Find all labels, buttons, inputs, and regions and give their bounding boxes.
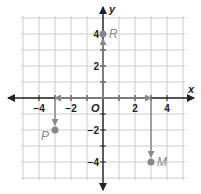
point-label: P — [41, 129, 49, 143]
y-tick-label: −2 — [88, 125, 100, 136]
x-tick-label: −2 — [65, 103, 77, 114]
point-M — [148, 159, 155, 166]
x-tick-label: −4 — [33, 103, 45, 114]
point-R — [100, 31, 107, 38]
point-label: M — [157, 155, 167, 169]
origin-label: O — [91, 102, 100, 114]
y-tick-label: −4 — [88, 157, 100, 168]
y-tick-label: 4 — [93, 29, 99, 40]
y-axis-label: y — [108, 3, 116, 15]
x-axis-label: x — [187, 83, 195, 95]
y-tick-label: 2 — [93, 61, 99, 72]
point-label: R — [109, 27, 118, 41]
x-tick-label: 2 — [132, 103, 138, 114]
x-tick-label: 4 — [164, 103, 170, 114]
coordinate-plane: −4−22442−2−4OxyRPM — [0, 0, 201, 194]
point-P — [52, 127, 59, 134]
